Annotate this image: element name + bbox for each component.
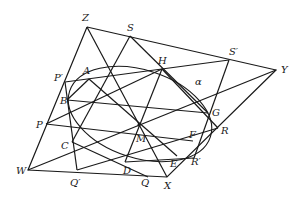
label-P: P	[35, 119, 43, 130]
label-Y: Y	[281, 64, 289, 75]
geometry-diagram: Z S S′ Y P′ A H α B P C M G R F R′ E D W…	[0, 0, 297, 201]
label-A: A	[82, 65, 90, 76]
label-W: W	[16, 165, 27, 176]
label-H: H	[157, 55, 167, 66]
label-F: F	[188, 129, 197, 140]
label-Z: Z	[81, 12, 90, 23]
label-R: R	[220, 125, 229, 136]
label-B: B	[59, 95, 67, 106]
label-C: C	[61, 140, 69, 151]
point-labels: Z S S′ Y P′ A H α B P C M G R F R′ E D W…	[16, 12, 289, 191]
label-Q: Q	[141, 177, 149, 188]
center-point-M	[137, 123, 140, 126]
label-X: X	[163, 180, 172, 191]
label-alpha: α	[195, 76, 202, 87]
label-D: D	[122, 165, 131, 176]
label-R-prime: R′	[190, 156, 202, 167]
label-S: S	[127, 22, 134, 33]
label-P-prime: P′	[53, 72, 64, 83]
label-S-prime: S′	[229, 46, 239, 57]
label-E: E	[169, 158, 178, 169]
label-Q-prime: Q′	[70, 177, 81, 188]
label-G: G	[212, 107, 220, 118]
label-M: M	[135, 133, 147, 144]
